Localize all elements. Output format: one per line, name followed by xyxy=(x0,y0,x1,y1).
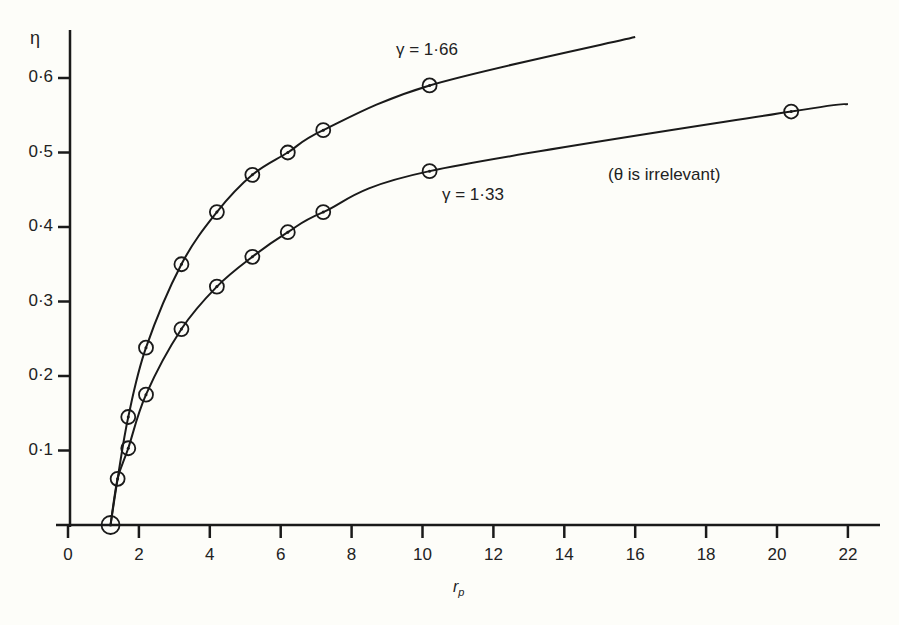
x-tick-label: 14 xyxy=(549,545,579,565)
data-point-dot xyxy=(144,346,147,349)
x-tick-label: 12 xyxy=(478,545,508,565)
data-point-dot xyxy=(286,151,289,154)
x-tick-label: 10 xyxy=(408,545,438,565)
y-tick-label: 0·3 xyxy=(3,291,53,311)
data-point-dot xyxy=(180,263,183,266)
data-point-dot xyxy=(790,110,793,113)
data-point-dot xyxy=(251,173,254,176)
data-point-dot xyxy=(286,231,289,234)
x-tick-label: 16 xyxy=(620,545,650,565)
y-tick-label: 0·4 xyxy=(3,216,53,236)
annotation-theta-irrelevant: (θ is irrelevant) xyxy=(608,165,720,185)
x-tick-label: 0 xyxy=(53,545,83,565)
series-label-gamma-1-33: γ = 1·33 xyxy=(442,185,504,205)
data-point-dot xyxy=(428,170,431,173)
data-point-dot xyxy=(428,84,431,87)
chart-canvas xyxy=(0,0,899,625)
curve-gamma-1-33 xyxy=(111,104,848,525)
y-axis-label: η xyxy=(30,28,40,49)
y-tick-label: 0·2 xyxy=(3,365,53,385)
y-tick-label: 0·6 xyxy=(3,67,53,87)
data-point-dot xyxy=(322,129,325,132)
x-axis-label-sub: p xyxy=(458,586,464,598)
y-tick-label: 0·1 xyxy=(3,440,53,460)
curve-gamma-1-66 xyxy=(111,37,636,525)
data-point-dot xyxy=(116,477,119,480)
x-tick-label: 2 xyxy=(124,545,154,565)
data-point-dot xyxy=(215,285,218,288)
y-tick-label: 0·5 xyxy=(3,142,53,162)
data-point-dot xyxy=(180,328,183,331)
x-tick-label: 22 xyxy=(833,545,863,565)
data-point-dot xyxy=(109,524,112,527)
x-tick-label: 6 xyxy=(266,545,296,565)
x-tick-label: 4 xyxy=(195,545,225,565)
data-point-dot xyxy=(127,447,130,450)
data-point-dot xyxy=(251,255,254,258)
data-markers xyxy=(102,78,799,534)
x-tick-label: 18 xyxy=(691,545,721,565)
data-point-dot xyxy=(144,393,147,396)
series-label-gamma-1-66: γ = 1·66 xyxy=(396,40,458,60)
x-tick-label: 8 xyxy=(337,545,367,565)
axes xyxy=(56,30,880,538)
x-tick-label: 20 xyxy=(762,545,792,565)
data-point-dot xyxy=(322,211,325,214)
x-axis-label: rp xyxy=(453,578,464,598)
data-point-dot xyxy=(127,415,130,418)
data-point-dot xyxy=(215,211,218,214)
